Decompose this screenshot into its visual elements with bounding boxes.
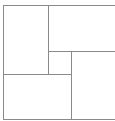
outer-top-border: [3, 5, 115, 6]
center-vertical-divider: [71, 51, 72, 119]
upper-right-divider: [48, 51, 115, 52]
upper-left-divider: [48, 5, 49, 75]
lower-left-divider: [3, 74, 72, 75]
outer-bottom-border: [3, 119, 115, 120]
diagram-canvas: [0, 0, 115, 121]
outer-left-border: [3, 5, 4, 119]
